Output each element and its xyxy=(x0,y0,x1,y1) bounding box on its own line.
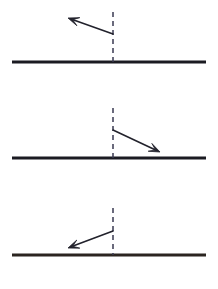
ray-panel-1 xyxy=(12,12,206,62)
arrow-shaft xyxy=(74,231,113,246)
ray-panel-2 xyxy=(12,108,206,158)
diagram-canvas xyxy=(0,0,218,289)
ray-diagram-figure xyxy=(0,0,218,289)
arrow-shaft xyxy=(74,20,113,34)
ray-panel-3 xyxy=(12,208,206,255)
arrow-shaft xyxy=(113,130,155,149)
panels-group xyxy=(12,12,206,255)
